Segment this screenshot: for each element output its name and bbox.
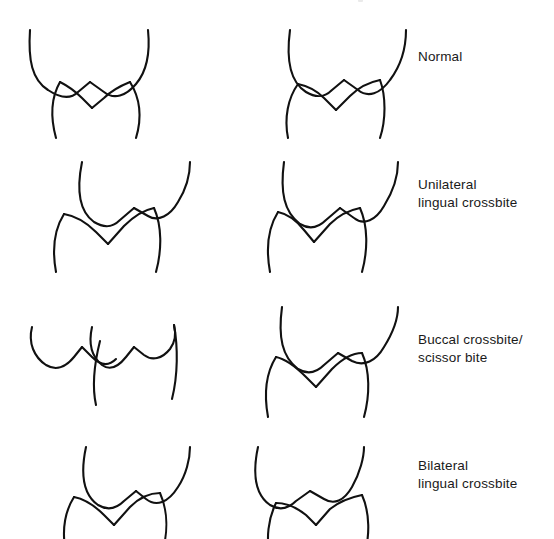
figure-row-bilateral-lingual-crossbite: Bilateral lingual crossbite bbox=[0, 425, 554, 539]
top-clip-mark bbox=[358, 0, 363, 2]
unilateral-lingual-crossbite-right-side bbox=[252, 150, 442, 280]
normal-left-side-occlusion bbox=[8, 20, 198, 150]
row-label-bilateral-lingual-crossbite: Bilateral lingual crossbite bbox=[418, 457, 550, 492]
row-label-line: Buccal crossbite/ bbox=[418, 331, 550, 349]
row-label-line: lingual crossbite bbox=[418, 194, 550, 212]
unilateral-lingual-crossbite-left-side bbox=[38, 150, 228, 280]
bilateral-lingual-crossbite-right-side bbox=[228, 425, 418, 539]
top-clipped-text-artifact bbox=[0, 0, 554, 5]
row-label-line: Unilateral bbox=[418, 176, 550, 194]
row-label-unilateral-lingual-crossbite: Unilateral lingual crossbite bbox=[418, 176, 550, 211]
figure-row-normal: Normal bbox=[0, 20, 554, 150]
row-label-line: Normal bbox=[418, 48, 550, 66]
row-label-line: scissor bite bbox=[418, 349, 550, 367]
occlusion-figure: Normal bbox=[0, 0, 554, 539]
row-label-line: Bilateral bbox=[418, 457, 550, 475]
buccal-crossbite-left-side bbox=[18, 295, 208, 425]
row-label-normal: Normal bbox=[418, 48, 550, 66]
figure-row-buccal-crossbite-scissor-bite: Buccal crossbite/ scissor bite bbox=[0, 295, 554, 425]
figure-row-unilateral-lingual-crossbite: Unilateral lingual crossbite bbox=[0, 150, 554, 280]
row-label-buccal-crossbite-scissor-bite: Buccal crossbite/ scissor bite bbox=[418, 331, 550, 366]
row-label-line: lingual crossbite bbox=[418, 475, 550, 493]
buccal-crossbite-right-side bbox=[252, 295, 442, 425]
normal-right-side-occlusion bbox=[258, 20, 448, 150]
bilateral-lingual-crossbite-left-side bbox=[48, 425, 238, 539]
